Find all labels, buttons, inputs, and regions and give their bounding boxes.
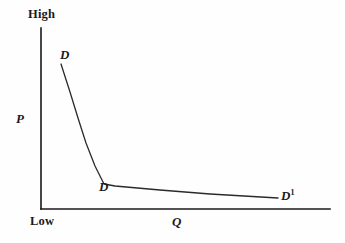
figure-canvas: [0, 0, 345, 243]
y-axis-bottom-label: Low: [30, 215, 54, 228]
curve-label-upper: D: [60, 48, 69, 61]
kinked-demand-curve-figure: High Low P Q D D D1: [0, 0, 345, 243]
demand-curve-path: [61, 64, 278, 198]
curve-label-kink: D: [99, 180, 108, 193]
axes-group: [41, 28, 330, 209]
demand-curve-group: [61, 64, 278, 198]
y-axis-top-label: High: [28, 8, 55, 21]
x-axis-variable-label: Q: [172, 215, 181, 228]
curve-label-right-base: D: [281, 188, 290, 203]
y-axis-variable-label: P: [16, 112, 24, 125]
curve-label-right-superscript: 1: [290, 188, 294, 197]
curve-label-right: D1: [281, 189, 294, 202]
